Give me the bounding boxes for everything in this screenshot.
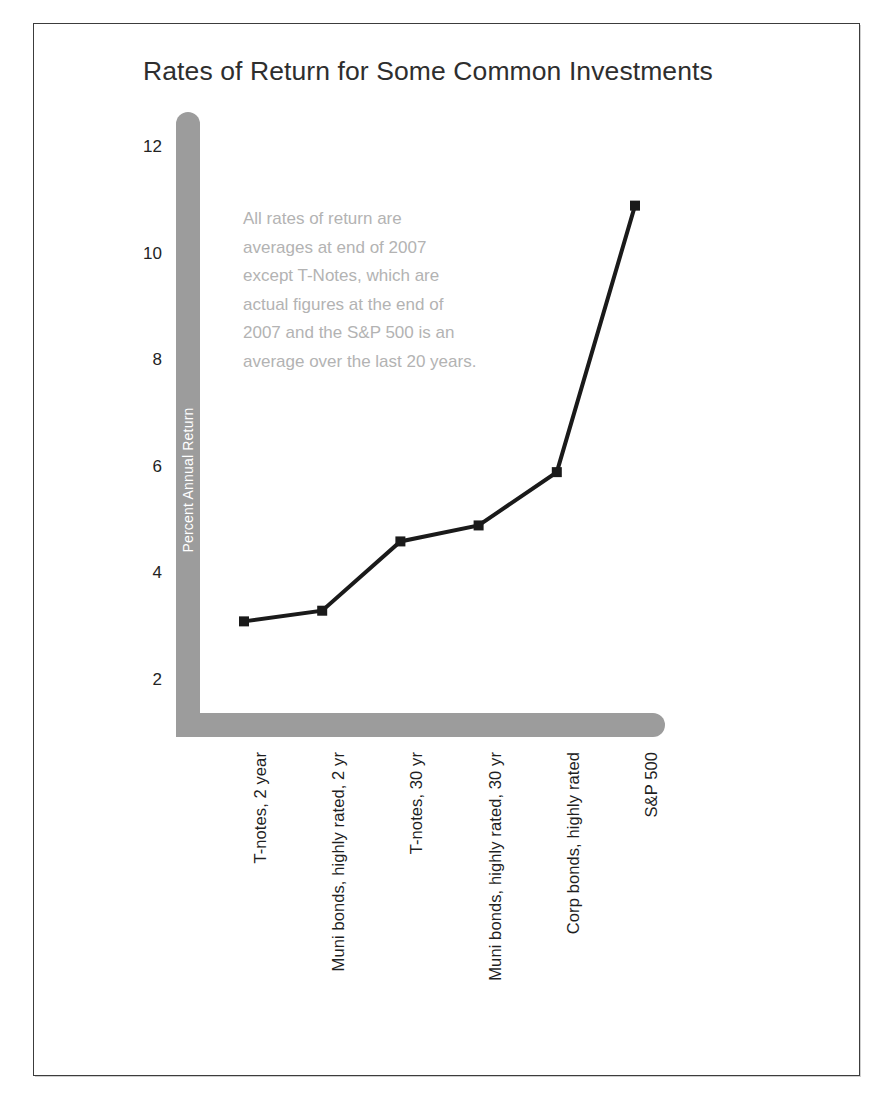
annotation-note: All rates of return areaverages at end o… <box>243 205 493 376</box>
data-series-layer <box>0 0 884 1099</box>
data-point-4 <box>552 467 562 477</box>
annotation-line-2: except T-Notes, which are <box>243 262 493 291</box>
data-point-1 <box>317 606 327 616</box>
data-point-0 <box>239 616 249 626</box>
data-point-2 <box>395 536 405 546</box>
annotation-line-0: All rates of return are <box>243 205 493 234</box>
plot-area: Percent Annual Return 24681012 T-notes, … <box>0 0 884 1099</box>
annotation-line-3: actual figures at the end of <box>243 291 493 320</box>
annotation-line-5: average over the last 20 years. <box>243 348 493 377</box>
annotation-line-1: averages at end of 2007 <box>243 234 493 263</box>
chart-page: Rates of Return for Some Common Investme… <box>0 0 884 1099</box>
annotation-line-4: 2007 and the S&P 500 is an <box>243 319 493 348</box>
data-point-3 <box>474 520 484 530</box>
data-point-5 <box>630 201 640 211</box>
